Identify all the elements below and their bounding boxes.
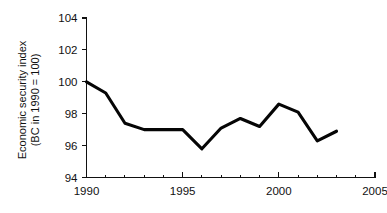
chart-figure: Economic security index (BC in 1990 = 10…: [0, 0, 387, 213]
x-tick-label-group: 1990199520002005: [74, 185, 387, 197]
x-tick-label: 2000: [266, 185, 292, 197]
x-tick-mark-group: [87, 172, 376, 178]
y-tick-label: 104: [58, 12, 78, 24]
y-axis-label-line2: (BC in 1990 = 100): [29, 54, 41, 147]
y-tick-label-group: 949698100102104: [58, 12, 78, 184]
x-tick-label: 1995: [170, 185, 196, 197]
y-tick-label: 102: [58, 44, 77, 56]
y-tick-label: 94: [65, 172, 78, 184]
y-axis-label-line1: Economic security index: [16, 40, 28, 159]
data-series-line: [87, 82, 337, 149]
y-tick-label: 100: [58, 76, 77, 88]
y-tick-label: 98: [65, 108, 78, 120]
y-tick-mark-group: [82, 18, 87, 178]
line-chart: Economic security index (BC in 1990 = 10…: [0, 0, 387, 213]
x-tick-label: 1990: [74, 185, 100, 197]
x-tick-label: 2005: [362, 185, 387, 197]
y-axis-label-group: Economic security index (BC in 1990 = 10…: [16, 40, 41, 159]
y-tick-label: 96: [65, 140, 78, 152]
